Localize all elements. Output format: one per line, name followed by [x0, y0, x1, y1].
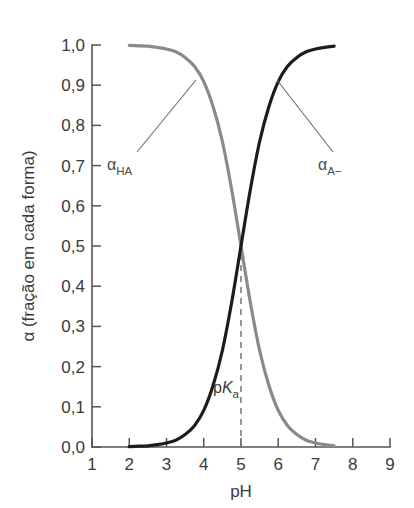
y-axis-tick-labels: 0,0 0,1 0,2 0,3 0,4 0,5 0,6 0,7 0,8 0,9 …: [61, 36, 85, 457]
x-axis-tick-labels: 1 2 3 4 5 6 7 8 9: [87, 455, 394, 474]
y-tick-label: 1,0: [61, 36, 85, 55]
series-label-alpha-a-minus: αA−: [318, 156, 342, 177]
y-axis-title: α (fração em cada forma): [19, 150, 38, 341]
x-tick-label: 2: [125, 455, 134, 474]
y-tick-label: 0,3: [61, 317, 85, 336]
y-tick-label: 0,6: [61, 197, 85, 216]
y-tick-label: 0,8: [61, 116, 85, 135]
x-tick-label: 9: [385, 455, 394, 474]
y-tick-label: 0,7: [61, 157, 85, 176]
y-tick-label: 0,2: [61, 358, 85, 377]
x-tick-label: 5: [236, 455, 245, 474]
pka-text: p: [213, 379, 222, 396]
leader-line-a-minus: [277, 80, 333, 152]
alpha-subscript-a-minus: A−: [327, 165, 342, 177]
pka-annotation-label: pKa: [213, 379, 240, 400]
leader-line-ha: [137, 80, 196, 152]
pka-subscript: a: [233, 388, 240, 400]
x-axis-title: pH: [230, 482, 252, 501]
x-tick-label: 7: [311, 455, 320, 474]
y-tick-label: 0,9: [61, 76, 85, 95]
x-tick-label: 1: [87, 455, 96, 474]
x-tick-label: 6: [274, 455, 283, 474]
alpha-subscript-ha: HA: [116, 165, 132, 177]
x-tick-label: 4: [199, 455, 208, 474]
y-tick-label: 0,4: [61, 277, 85, 296]
x-tick-label: 3: [162, 455, 171, 474]
ph-fraction-chart: 0,0 0,1 0,2 0,3 0,4 0,5 0,6 0,7 0,8 0,9 …: [0, 0, 414, 508]
y-tick-label: 0,1: [61, 398, 85, 417]
series-label-alpha-ha: αHA: [107, 156, 133, 177]
x-tick-label: 8: [348, 455, 357, 474]
chart-figure: 0,0 0,1 0,2 0,3 0,4 0,5 0,6 0,7 0,8 0,9 …: [0, 0, 414, 508]
y-tick-label: 0,0: [61, 438, 85, 457]
y-tick-label: 0,5: [61, 237, 85, 256]
alpha-glyph-ha: α: [107, 156, 116, 173]
y-axis-ticks: [92, 45, 101, 447]
alpha-glyph-a-minus: α: [318, 156, 327, 173]
